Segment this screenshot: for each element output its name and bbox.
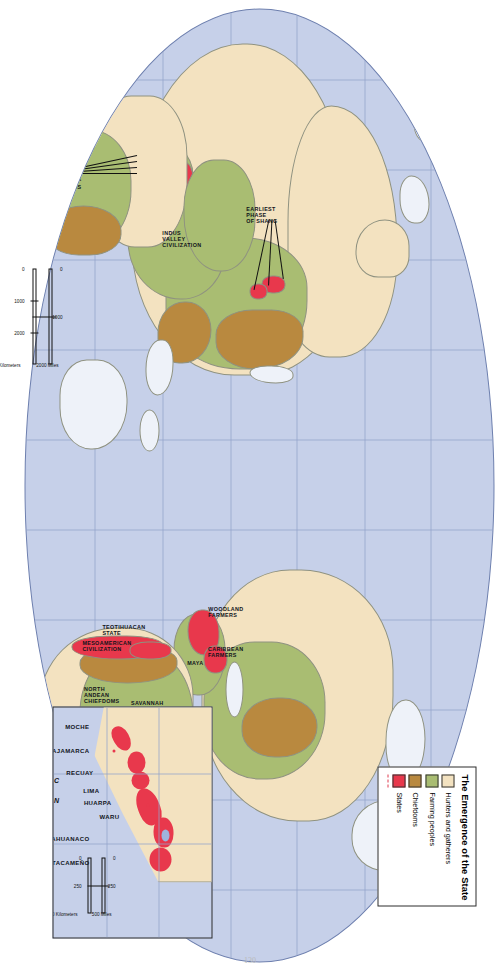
landmass-australia [59,359,127,449]
page-root: EARLIEST PHASE OF SHANG INDUS VALLEY CIV… [0,0,500,969]
legend-swatch-states [392,774,405,787]
legend-title: The Emergence of the State [459,774,470,898]
inset-site-dot-waru [146,803,149,806]
main-scale-km-label: 3000 Kilometers [0,362,20,367]
label-hierakonpolis: HIERAKONPOLIS [32,183,81,189]
leader-line [79,173,137,174]
graticule-meridian [25,529,493,530]
state-shang-2 [249,283,267,299]
main-scale-miles-label: 2000 Miles [36,362,58,367]
label-woodland-farmers: WOODLAND FARMERS [208,605,243,617]
inset-scale-km-tick-250: 250 [73,883,81,888]
label-naqada: NAQADA [55,175,81,181]
main-scale-km-0: 0 [21,266,24,271]
legend-swatch-chiefdoms [408,774,421,787]
rotated-map-wrapper: EARLIEST PHASE OF SHANG INDUS VALLEY CIV… [0,0,500,969]
legend-item-states: States [392,774,405,898]
state-chimu [129,641,171,659]
label-teotihuacan-state: TEOTIHUACAN STATE [102,623,145,635]
map-canvas: EARLIEST PHASE OF SHANG INDUS VALLEY CIV… [0,0,500,969]
legend-label-hunters: Hunters and gatherers [443,792,452,864]
legend-swatch-hunters [441,774,454,787]
main-scale-miles-1000: 1000 [52,314,62,319]
inset-scale-bar: 0 250 500 Miles 500 Kilometers 0 250 [75,857,115,921]
page-number: 130 [0,956,500,965]
legend-label-farming: Farming peoples [427,792,436,846]
main-scale-tick-km-2 [30,332,38,333]
inset-scale-tick-250: 250 [107,883,115,888]
label-mesoamerican-civilization: MESOAMERICAN CIVILIZATION [82,639,131,651]
landmass-new-guinea [139,409,159,451]
label-north-andean-chiefdoms: NORTH ANDEAN CHIEFDOMS [84,685,120,704]
inset-label-huarpa: HUARPA [83,799,111,805]
legend-swatch-farming [425,774,438,787]
legend-item-hunters: Hunters and gatherers [441,774,454,898]
landmass-arctic-islands [399,175,429,223]
inset-ocean-name-line2: O C E A N [52,797,59,803]
inset-graticule-line [158,707,159,937]
main-scale-miles-0: 0 [59,266,62,271]
legend-item-boundary [387,774,388,898]
legend-label-states: States [394,792,403,812]
inset-state-recuay [127,751,145,773]
inset-ocean-name-line1: P A C I F I C [52,777,59,783]
main-scale-bar: 0 1000 2000 Miles 0 1000 2000 3000 Kilom… [16,268,64,378]
inset-label-moche: MOCHE [65,723,89,729]
landmass-caribbean [225,661,243,717]
label-caribbean-farmers: CARIBBEAN FARMERS [208,645,244,657]
landmass-indonesia [145,339,173,395]
legend-item-chiefdoms: Chiefdoms [408,774,421,898]
inset-lake-titicaca [161,829,169,841]
legend-swatch-dashed-boundary [387,774,388,787]
main-scale-km-1000: 1000 [14,298,24,303]
label-maadi-culture: MAADI CULTURE [32,159,81,165]
legend-panel: The Emergence of the State Hunters and g… [377,766,476,906]
inset-scale-tick-0: 0 [112,855,115,860]
region-africa-chiefdoms [45,205,121,255]
inset-label-recuay: RECUAY [66,769,93,775]
landmass-arctic-island-2 [413,105,435,141]
inset-label-waru: WARU [99,813,119,819]
inset-map-central-andes: MOCHE CAJAMARCA RECUAY LIMA HUARPA WARU … [52,706,212,938]
legend-item-farming: Farming peoples [425,774,438,898]
label-indus-valley-civilization: INDUS VALLEY CIVILIZATION [162,229,201,248]
landmass-japan [249,365,293,383]
label-maya: MAYA [187,659,203,665]
main-scale-tick-km [30,300,38,301]
main-scale-km-2000: 2000 [14,330,24,335]
inset-scale-label-km: 500 Kilometers [52,911,77,916]
inset-site-dot-huarpa [138,777,141,780]
inset-state-atacameno [149,847,171,871]
inset-label-tiahuanaco: TIAHUANACO [52,835,89,841]
legend-label-chiefdoms: Chiefdoms [410,792,419,826]
region-europe-farming [183,159,255,271]
inset-scale-km-tick-0: 0 [78,855,81,860]
inset-graticule-meridian [53,843,211,844]
inset-scale-label-miles: 500 Miles [91,911,111,916]
inset-label-lima: LIMA [83,787,99,793]
inset-label-cajamarca: CAJAMARCA [52,747,89,753]
inset-site-dot-cajamarca [112,749,115,752]
inset-scale-tick [87,885,109,886]
region-north-america-chiefdoms [241,697,317,757]
